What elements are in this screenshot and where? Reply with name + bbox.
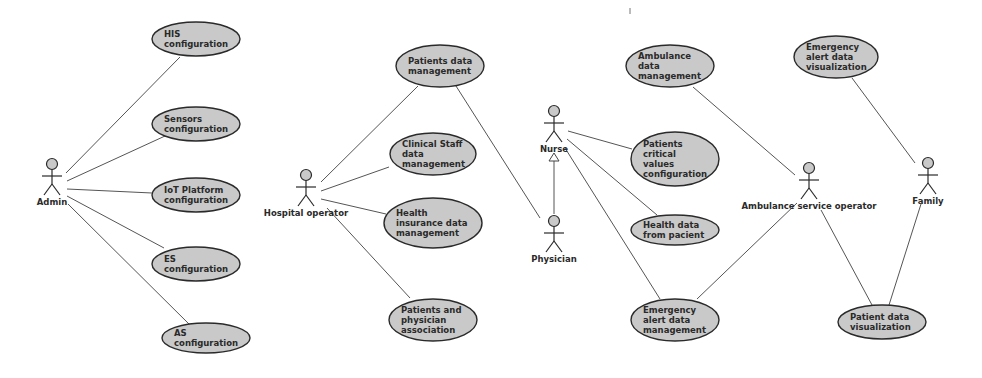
association-admin-sensors_config — [67, 136, 165, 181]
use-case-label: Health — [396, 208, 428, 218]
use-case-diagram: HISconfigurationSensorsconfigurationIoT … — [0, 0, 982, 378]
association-admin-es_config — [67, 196, 164, 248]
use-case-label: management — [402, 159, 465, 169]
actor-left-leg-icon — [44, 184, 52, 195]
use-case-label: critical — [643, 149, 676, 159]
actor-head-icon — [301, 170, 312, 181]
use-case-label: Patients — [643, 139, 683, 149]
use-case-health-insurance-mgmt[interactable]: Healthinsurance datamanagement — [384, 198, 482, 248]
use-case-label: management — [408, 66, 471, 76]
association-ambulance_service_operator-patient_data_vis — [821, 210, 872, 305]
generalizations-layer — [549, 153, 559, 214]
use-case-emergency-alert-mgmt[interactable]: Emergencyalert datamanagement — [631, 299, 719, 341]
actor-right-leg-icon — [554, 131, 562, 142]
use-case-es-config[interactable]: ESconfiguration — [152, 247, 240, 281]
use-case-label: Patients data — [408, 56, 472, 66]
use-case-iot-config[interactable]: IoT Platformconfiguration — [152, 178, 240, 212]
use-case-label: configuration — [643, 169, 707, 179]
use-case-ambulance-data-mgmt[interactable]: Ambulancedatamanagement — [626, 45, 714, 87]
association-ambulance_service_operator-emergency_alert_mgmt — [697, 203, 797, 299]
use-case-label: Patient data — [850, 312, 909, 322]
use-case-label: Sensors — [164, 114, 202, 124]
use-case-patients-critical-values[interactable]: Patientscriticalvaluesconfiguration — [631, 132, 719, 186]
use-case-label: visualization — [850, 322, 911, 332]
actor-left-leg-icon — [546, 241, 554, 252]
actor-nurse[interactable]: Nurse — [540, 106, 568, 155]
use-case-label: management — [638, 71, 701, 81]
use-case-label: Emergency — [643, 305, 697, 315]
use-case-clinical-staff-mgmt[interactable]: Clinical Staffdatamanagement — [390, 133, 476, 175]
use-case-label: management — [396, 228, 459, 238]
actor-right-leg-icon — [809, 188, 817, 199]
use-case-label: management — [643, 325, 706, 335]
actor-hospital-operator[interactable]: Hospital operator — [264, 170, 349, 219]
use-case-label: HIS — [164, 29, 180, 39]
use-case-label: alert data — [643, 315, 691, 325]
use-case-label: insurance data — [396, 218, 468, 228]
actor-right-leg-icon — [928, 183, 936, 194]
use-case-label: association — [401, 325, 455, 335]
use-case-label: values — [643, 159, 674, 169]
use-case-label: physician — [401, 315, 446, 325]
actor-label: Physician — [531, 254, 577, 264]
actor-ambulance-service-operator[interactable]: Ambulance service operator — [742, 163, 878, 212]
use-case-label: data — [638, 61, 660, 71]
actor-right-leg-icon — [52, 184, 60, 195]
actor-physician[interactable]: Physician — [531, 216, 577, 265]
use-case-label: ES — [164, 254, 176, 264]
use-case-label: AS — [174, 328, 187, 338]
actor-admin[interactable]: Admin — [37, 159, 68, 208]
actor-label: Admin — [37, 197, 68, 207]
actor-label: Hospital operator — [264, 208, 349, 218]
actor-right-leg-icon — [554, 241, 562, 252]
association-family-emergency_alert_vis — [852, 78, 915, 163]
use-case-label: Ambulance — [638, 51, 691, 61]
actor-left-leg-icon — [801, 188, 809, 199]
use-case-label: data — [402, 149, 424, 159]
actor-left-leg-icon — [546, 131, 554, 142]
actor-left-leg-icon — [920, 183, 928, 194]
use-case-label: Health data — [643, 220, 699, 230]
use-case-label: configuration — [164, 124, 228, 134]
actor-head-icon — [923, 158, 934, 169]
use-case-sensors-config[interactable]: Sensorsconfiguration — [152, 107, 240, 141]
actor-label: Nurse — [540, 144, 568, 154]
association-nurse-patients_critical_values — [568, 131, 632, 149]
actor-label: Family — [912, 196, 944, 206]
actor-head-icon — [549, 106, 560, 117]
use-case-label: configuration — [164, 264, 228, 274]
actor-family[interactable]: Family — [912, 158, 944, 207]
use-case-label: Emergency — [806, 42, 860, 52]
use-case-label: Clinical Staff — [402, 139, 463, 149]
actor-head-icon — [47, 159, 58, 170]
use-case-label: Patients and — [401, 305, 461, 315]
use-case-patient-data-vis[interactable]: Patient datavisualization — [838, 305, 926, 339]
use-case-label: configuration — [164, 39, 228, 49]
use-case-label: configuration — [164, 195, 228, 205]
use-case-label: from pacient — [643, 230, 704, 240]
association-admin-iot_config — [67, 189, 152, 193]
actor-right-leg-icon — [306, 195, 314, 206]
use-case-patients-data-mgmt[interactable]: Patients datamanagement — [396, 45, 484, 87]
use-case-label: alert data — [806, 52, 854, 62]
use-cases-layer: HISconfigurationSensorsconfigurationIoT … — [152, 22, 926, 353]
use-case-label: configuration — [174, 338, 238, 348]
actor-head-icon — [804, 163, 815, 174]
use-case-as-config[interactable]: ASconfiguration — [162, 323, 250, 353]
actor-left-leg-icon — [298, 195, 306, 206]
association-hospital_operator-clinical_staff_mgmt — [321, 167, 389, 191]
association-family-patient_data_vis — [889, 204, 921, 305]
use-case-emergency-alert-vis[interactable]: Emergencyalert datavisualization — [794, 36, 878, 78]
use-case-his-config[interactable]: HISconfiguration — [152, 22, 240, 56]
use-case-label: visualization — [806, 62, 867, 72]
use-case-patients-physician-assoc[interactable]: Patients andphysicianassociation — [389, 299, 477, 341]
actor-head-icon — [549, 216, 560, 227]
use-case-label: IoT Platform — [164, 185, 223, 195]
actor-label: Ambulance service operator — [742, 201, 878, 211]
generalization-arrow-icon — [549, 153, 559, 161]
use-case-health-data-from-patient[interactable]: Health datafrom pacient — [631, 215, 719, 245]
